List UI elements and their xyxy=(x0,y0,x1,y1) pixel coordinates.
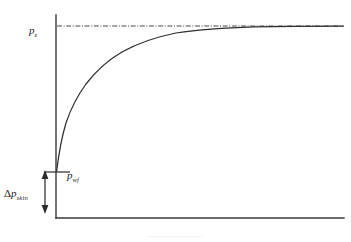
label-pwf-symbol: p xyxy=(67,169,73,181)
label-dpskin-symbol: p xyxy=(11,187,17,199)
label-pe: pe xyxy=(29,21,38,37)
label-pwf: pwf xyxy=(67,166,79,182)
label-dpskin-subscript: skin xyxy=(17,194,28,201)
label-pe-symbol: p xyxy=(29,24,35,36)
figure-container: pe pwf Δpskin ··················· xyxy=(0,0,351,242)
pressure-curve xyxy=(57,26,344,172)
figure-caption-cropped: ··················· xyxy=(0,232,351,242)
label-pe-subscript: e xyxy=(35,31,38,38)
dpskin-arrow-head-down xyxy=(42,205,49,214)
figure-canvas xyxy=(0,0,351,242)
label-pwf-subscript: wf xyxy=(73,176,80,183)
label-dpskin: Δpskin xyxy=(4,184,28,200)
